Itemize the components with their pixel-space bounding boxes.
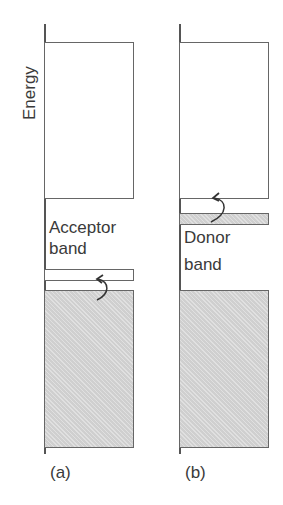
donor-band-label-line2: band bbox=[184, 255, 222, 275]
panel-a-caption: (a) bbox=[50, 463, 71, 483]
energy-axis-label: Energy bbox=[20, 66, 40, 120]
conduction-band-a bbox=[44, 42, 134, 199]
panel-b-caption: (b) bbox=[185, 463, 206, 483]
acceptor-band-label-line2: band bbox=[49, 239, 87, 259]
valence-band-a bbox=[44, 290, 134, 448]
conduction-band-b bbox=[179, 42, 269, 199]
donor-band-label-line1: Donor bbox=[184, 228, 230, 248]
excitation-arrow-a-icon bbox=[88, 270, 118, 310]
excitation-arrow-b-icon bbox=[208, 186, 238, 228]
acceptor-band-label-line1: Acceptor bbox=[49, 218, 116, 238]
valence-band-b bbox=[179, 290, 269, 448]
